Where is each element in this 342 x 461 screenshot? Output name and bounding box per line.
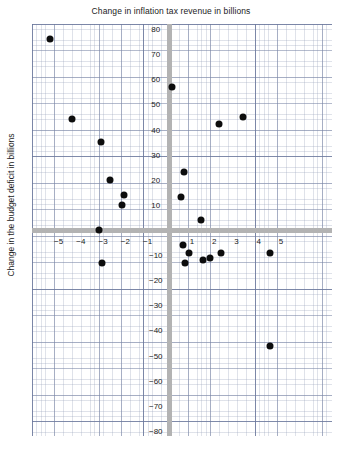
x-tick-label: −4 [76, 237, 85, 246]
x-tick-label: −5 [54, 237, 63, 246]
x-tick-label: 4 [256, 237, 260, 246]
y-tick-label: 70 [151, 50, 160, 59]
data-point [266, 342, 273, 349]
data-point [46, 36, 53, 43]
y-tick-label: −50 [149, 351, 163, 360]
y-tick-label: −30 [149, 301, 163, 310]
x-axis-line [32, 228, 332, 233]
y-tick-label: −70 [149, 401, 163, 410]
x-tick-label: −2 [121, 237, 130, 246]
data-point [97, 139, 104, 146]
x-tick-label: 3 [234, 237, 238, 246]
data-point [99, 259, 106, 266]
y-axis-label: Change in the budget deficit in billions [6, 115, 16, 295]
data-point [197, 216, 204, 223]
data-point [181, 169, 188, 176]
y-tick-label: −80 [149, 426, 163, 435]
data-point [121, 191, 128, 198]
data-point [69, 116, 76, 123]
x-tick-label: 2 [212, 237, 216, 246]
y-tick-label: −20 [149, 276, 163, 285]
x-tick-label: 5 [279, 237, 283, 246]
y-tick-label: 10 [151, 200, 160, 209]
y-tick-label: −10 [149, 251, 163, 260]
data-point [180, 242, 187, 249]
data-point [206, 254, 213, 261]
data-point [240, 113, 247, 120]
y-tick-label: 50 [151, 100, 160, 109]
y-tick-label: 60 [151, 75, 160, 84]
data-point [119, 201, 126, 208]
data-point [215, 121, 222, 128]
x-tick-label: 1 [190, 237, 194, 246]
data-point [95, 227, 102, 234]
data-point [182, 259, 189, 266]
y-tick-label: 40 [151, 125, 160, 134]
scatter-chart-figure: Change in inflation tax revenue in billi… [0, 0, 342, 461]
plot-area: −5−4−3−2−112345 8070605040302010−10−20−3… [32, 24, 332, 436]
y-tick-label: 20 [151, 175, 160, 184]
y-tick-label: −60 [149, 376, 163, 385]
data-point [217, 249, 224, 256]
y-tick-label: 30 [151, 150, 160, 159]
data-point [266, 249, 273, 256]
y-tick-label: −40 [149, 326, 163, 335]
x-tick-label: −1 [143, 237, 152, 246]
data-point [106, 176, 113, 183]
chart-title: Change in inflation tax revenue in billi… [0, 6, 342, 16]
data-point [169, 83, 176, 90]
data-point [177, 194, 184, 201]
data-point [185, 249, 192, 256]
y-tick-label: 80 [151, 25, 160, 34]
x-tick-label: −3 [99, 237, 108, 246]
